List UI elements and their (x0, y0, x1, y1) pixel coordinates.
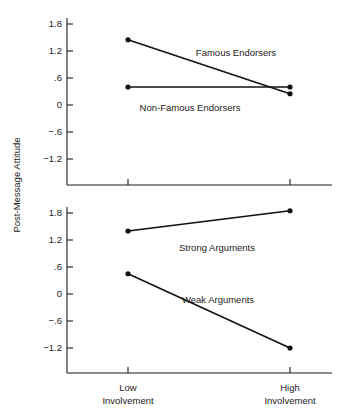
x-axis-category-labels: LowInvolvementHighInvolvement (102, 382, 316, 406)
data-point (287, 208, 292, 213)
data-point (287, 91, 292, 96)
series-annotation-label: Weak Arguments (182, 294, 254, 305)
interaction-plot-svg: Post-Message Attitude 1.81.2.60−.6−1.2 1… (0, 0, 349, 420)
y-tick-label: .6 (54, 72, 62, 83)
data-point (287, 84, 292, 89)
data-point (125, 37, 130, 42)
series-line (128, 211, 290, 231)
y-tick-label: 1.8 (49, 18, 62, 29)
y-tick-label: −1.2 (43, 153, 62, 164)
y-tick-label: 1.2 (49, 45, 62, 56)
lower-panel: 1.81.2.60−.6−1.2 (43, 207, 332, 373)
series-annotation-label: Non-Famous Endorsers (140, 102, 241, 113)
y-tick-label: 0 (57, 288, 62, 299)
lower-x-ticks (128, 367, 290, 373)
upper-y-ticks: 1.81.2.60−.6−1.2 (43, 18, 73, 164)
y-tick-label: .6 (54, 261, 62, 272)
y-axis-title: Post-Message Attitude (11, 137, 22, 232)
data-point (125, 228, 130, 233)
chart-figure: Post-Message Attitude 1.81.2.60−.6−1.2 1… (0, 0, 349, 420)
x-axis-label-primary: High (280, 382, 300, 393)
lower-y-ticks: 1.81.2.60−.6−1.2 (43, 207, 73, 353)
series-annotations: Famous EndorsersNon-Famous EndorsersStro… (140, 47, 277, 305)
y-tick-label: −1.2 (43, 342, 62, 353)
y-tick-label: 0 (57, 99, 62, 110)
y-tick-label: −.6 (49, 126, 62, 137)
data-point (287, 345, 292, 350)
y-tick-label: 1.2 (49, 234, 62, 245)
lower-series-group (125, 208, 292, 350)
x-axis-label-secondary: Involvement (102, 395, 154, 406)
series-annotation-label: Strong Arguments (179, 242, 255, 253)
series-line (128, 274, 290, 348)
data-point (125, 84, 130, 89)
y-tick-label: 1.8 (49, 207, 62, 218)
series-annotation-label: Famous Endorsers (196, 47, 277, 58)
upper-x-ticks (128, 179, 290, 185)
data-point (125, 271, 130, 276)
x-axis-label-secondary: Involvement (264, 395, 316, 406)
x-axis-label-primary: Low (119, 382, 137, 393)
y-tick-label: −.6 (49, 315, 62, 326)
